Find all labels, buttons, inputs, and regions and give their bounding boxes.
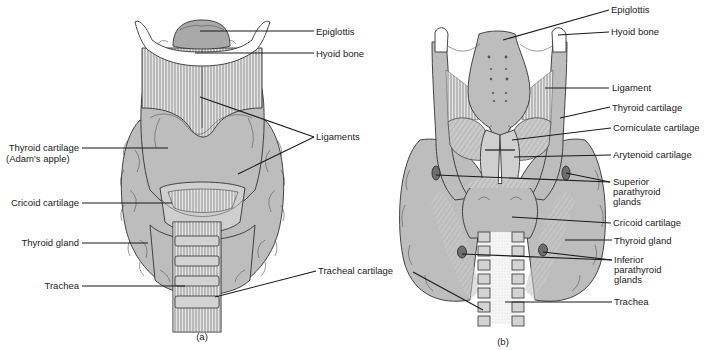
inferior-parathyroid-right (539, 244, 548, 256)
cricoid-cartilage-b (463, 178, 538, 238)
label-trachea-a: Trachea (45, 280, 80, 291)
label-trachea-b: Trachea (614, 296, 649, 307)
label-corniculate-cartilage: Corniculate cartilage (613, 122, 700, 133)
label-hyoid-bone-b: Hyoid bone (611, 26, 659, 37)
superior-parathyroid-left (432, 166, 440, 180)
trachea-a (173, 222, 221, 332)
label-adams-apple-a: (Adam's apple) (6, 153, 70, 164)
label-ligaments-a: Ligaments (316, 131, 360, 142)
epiglottis-pit (492, 92, 494, 94)
tracheal-rings-left (478, 232, 490, 326)
label-ligament-b: Ligament (612, 82, 651, 93)
epiglottis-pit (493, 100, 495, 102)
tracheal-ring (175, 276, 219, 286)
tracheal-ring (175, 256, 219, 266)
label-epiglottis-a: Epiglottis (316, 26, 355, 37)
tracheal-rings-right (512, 232, 524, 326)
epiglottis-pit (505, 68, 507, 70)
label-thyroid-cartilage-b: Thyroid cartilage (612, 102, 682, 113)
label-epiglottis-b: Epiglottis (611, 4, 650, 15)
label-arytenoid-cartilage: Arytenoid cartilage (613, 149, 692, 160)
tracheal-ring (175, 236, 219, 246)
label-thyroid-cartilage-a: Thyroid cartilage (9, 142, 79, 153)
label-thyroid-gland-a: Thyroid gland (21, 237, 79, 248)
label-thyroid-gland-b: Thyroid gland (614, 235, 672, 246)
inferior-parathyroid-left (458, 246, 467, 258)
larynx-thyroid-diagram: Epiglottis Hyoid bone Ligaments Thyroid … (0, 0, 705, 350)
epiglottis-pit (488, 56, 491, 59)
epiglottis-pit (505, 56, 508, 59)
epiglottis-a (173, 20, 230, 49)
label-tracheal-cartilage: Tracheal cartilage (318, 265, 393, 276)
epiglottis-pit (505, 92, 507, 94)
caption-a: (a) (196, 331, 208, 342)
label-cricoid-cartilage-a: Cricoid cartilage (11, 197, 79, 208)
epiglottis-pit (490, 68, 492, 70)
epiglottis-pit (490, 78, 492, 80)
label-superior-parathyroid-3: glands (613, 196, 641, 207)
tracheal-ring (175, 296, 219, 308)
label-hyoid-bone-a: Hyoid bone (316, 48, 364, 59)
label-inferior-parathyroid-3: glands (614, 274, 642, 285)
trachea-b (478, 232, 524, 326)
epiglottis-pit (506, 78, 509, 81)
epiglottis-pit (505, 100, 507, 102)
label-cricoid-cartilage-b: Cricoid cartilage (613, 217, 681, 228)
caption-b: (b) (497, 336, 509, 347)
